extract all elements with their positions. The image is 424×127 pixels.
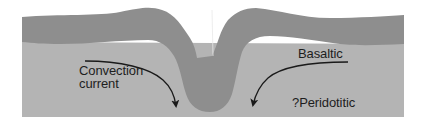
convection-label-line2: current (79, 77, 119, 90)
peridotitic-label: ?Peridotitic (292, 96, 355, 109)
basaltic-label: Basaltic (298, 47, 343, 60)
crustal-downfold-diagram (0, 0, 424, 127)
